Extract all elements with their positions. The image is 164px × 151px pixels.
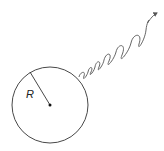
wave-arrow — [79, 13, 157, 79]
center-point — [49, 104, 52, 107]
diagram-canvas: R — [0, 0, 164, 151]
radius-label: R — [26, 88, 34, 100]
